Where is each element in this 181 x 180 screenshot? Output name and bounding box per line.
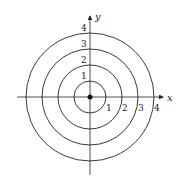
- x-tick-4: 4: [154, 103, 160, 113]
- origin-point: [88, 95, 93, 100]
- x-tick-1: 1: [106, 103, 112, 113]
- y-tick-1: 1: [81, 71, 87, 81]
- y-tick-4: 4: [81, 23, 87, 33]
- concentric-circles-diagram: x y 1 2 3 4 1 2 3 4: [0, 0, 181, 180]
- y-tick-3: 3: [81, 39, 87, 49]
- x-tick-2: 2: [122, 103, 128, 113]
- y-tick-2: 2: [81, 55, 87, 65]
- y-axis-label: y: [94, 11, 101, 22]
- x-tick-3: 3: [138, 103, 144, 113]
- x-axis-label: x: [167, 92, 173, 103]
